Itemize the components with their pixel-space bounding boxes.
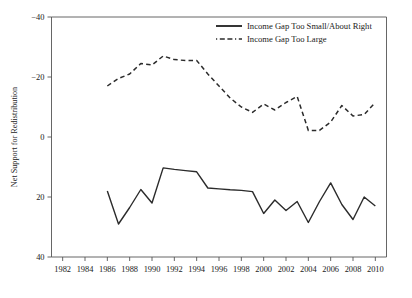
chart-figure: 40200−20−4019821984198619881990199219941… — [0, 0, 412, 298]
legend-label-2: Income Gap Too Large — [247, 34, 327, 44]
y-axis-tick-label: −40 — [31, 13, 44, 22]
y-axis-title: Net Support for Redistribution — [10, 87, 19, 187]
y-axis-tick-label: 20 — [36, 193, 44, 202]
x-axis-tick-label: 1988 — [121, 265, 138, 274]
line-chart: 40200−20−4019821984198619881990199219941… — [0, 0, 412, 298]
x-axis-tick-label: 1994 — [188, 265, 206, 274]
x-axis-tick-label: 1986 — [99, 265, 116, 274]
plot-frame — [52, 17, 387, 257]
x-axis-tick-label: 2006 — [322, 265, 339, 274]
x-axis-tick-label: 2008 — [345, 265, 362, 274]
y-axis-tick-label: −20 — [31, 73, 44, 82]
x-axis-tick-label: 1992 — [166, 265, 183, 274]
series-line-1 — [107, 168, 375, 224]
y-axis-tick-label: 0 — [40, 133, 44, 142]
series-line-2 — [107, 56, 375, 130]
y-axis-tick-label: 40 — [36, 253, 44, 262]
x-axis-tick-label: 1996 — [211, 265, 228, 274]
legend-label-1: Income Gap Too Small/About Right — [247, 21, 372, 31]
x-axis-tick-label: 2000 — [255, 265, 272, 274]
x-axis-tick-label: 2010 — [367, 265, 384, 274]
x-axis-tick-label: 2004 — [300, 265, 318, 274]
x-axis-tick-label: 2002 — [278, 265, 295, 274]
x-axis-tick-label: 1998 — [233, 265, 250, 274]
x-axis-tick-label: 1982 — [54, 265, 71, 274]
x-axis-tick-label: 1990 — [144, 265, 161, 274]
x-axis-tick-label: 1984 — [77, 265, 95, 274]
